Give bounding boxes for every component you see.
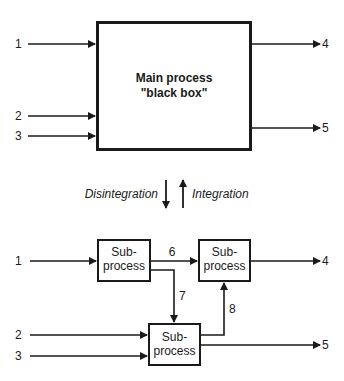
flow-7-arrow [150, 270, 174, 322]
bottom-input-2-label: 2 [15, 328, 22, 342]
bottom-output-4-label: 4 [322, 254, 329, 268]
top-output-4-label: 4 [322, 37, 329, 51]
bottom-input-3-label: 3 [15, 349, 22, 363]
black-box-label: "black box" [141, 86, 208, 100]
subprocess-box-3: Sub- process [149, 324, 200, 365]
bottom-output-5-label: 5 [322, 338, 329, 352]
top-output-5-label: 5 [322, 121, 329, 135]
subprocess-box-1: Sub- process [98, 240, 150, 281]
subprocess-2-label-2: process [203, 259, 245, 273]
subprocess-3-label-1: Sub- [162, 330, 187, 344]
flow-7-label: 7 [179, 289, 186, 303]
integration-label: Integration [192, 187, 249, 201]
flow-8-arrow [200, 283, 224, 335]
disintegration-label: Disintegration [85, 187, 159, 201]
subprocess-box-2: Sub- process [199, 240, 250, 281]
top-input-arrows: 1 2 3 [15, 37, 95, 143]
flow-8-label: 8 [229, 302, 236, 316]
bottom-input-1-label: 1 [15, 254, 22, 268]
subprocess-1-label-1: Sub- [111, 245, 136, 259]
main-process-box: Main process "black box" [98, 23, 251, 150]
subprocess-2-label-1: Sub- [212, 245, 237, 259]
top-input-2-label: 2 [15, 109, 22, 123]
subprocess-1-label-2: process [103, 259, 145, 273]
top-output-arrows: 4 5 [252, 37, 329, 135]
top-input-1-label: 1 [15, 37, 22, 51]
main-process-label: Main process [136, 71, 213, 85]
top-input-3-label: 3 [15, 129, 22, 143]
process-diagram: Main process "black box" 1 2 3 4 5 Disin… [0, 0, 344, 381]
transition-arrows: Disintegration Integration [85, 180, 249, 208]
subprocess-3-label-2: process [153, 344, 195, 358]
flow-6-label: 6 [169, 245, 176, 259]
